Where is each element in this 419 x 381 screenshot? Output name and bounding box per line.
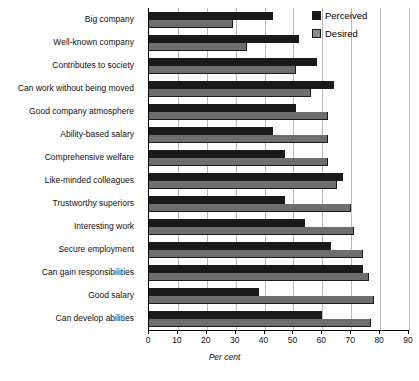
plot-area xyxy=(148,8,409,330)
bar-desired xyxy=(149,296,374,304)
category-label: Like-minded colleagues xyxy=(45,175,134,185)
x-tick-60 xyxy=(321,330,322,334)
legend-label-perceived: Perceived xyxy=(325,10,367,21)
legend-swatch-perceived-icon xyxy=(312,11,321,20)
category-label: Comprehensive welfare xyxy=(45,152,134,162)
bar-desired xyxy=(149,204,351,212)
category-label: Contributes to society xyxy=(52,60,134,70)
gridline-10 xyxy=(178,8,179,330)
bar-perceived xyxy=(149,265,363,273)
category-label: Good salary xyxy=(88,290,134,300)
gridline-50 xyxy=(293,8,294,330)
x-tick-label-20: 20 xyxy=(201,335,210,345)
category-label: Big company xyxy=(85,14,134,24)
x-tick-label-10: 10 xyxy=(172,335,181,345)
gridline-20 xyxy=(207,8,208,330)
bar-desired xyxy=(149,112,328,120)
x-tick-40 xyxy=(264,330,265,334)
legend-label-desired: Desired xyxy=(325,28,358,39)
bar-perceived xyxy=(149,311,322,319)
gridline-30 xyxy=(236,8,237,330)
legend-item-desired[interactable]: Desired xyxy=(312,28,367,39)
x-tick-label-60: 60 xyxy=(317,335,326,345)
x-tick-label-0: 0 xyxy=(146,335,151,345)
x-tick-90 xyxy=(408,330,409,334)
bar-perceived xyxy=(149,288,259,296)
gridline-80 xyxy=(380,8,381,330)
bar-desired xyxy=(149,273,369,281)
bar-perceived xyxy=(149,242,331,250)
x-tick-label-50: 50 xyxy=(288,335,297,345)
x-tick-label-80: 80 xyxy=(374,335,383,345)
category-label: Can work without being moved xyxy=(18,83,134,93)
x-axis-title-text: Per cent xyxy=(209,352,241,362)
bar-perceived xyxy=(149,173,343,181)
category-label: Interesting work xyxy=(74,221,134,231)
category-label: Can develop abilities xyxy=(56,313,134,323)
x-tick-70 xyxy=(350,330,351,334)
x-tick-label-70: 70 xyxy=(345,335,354,345)
x-tick-20 xyxy=(206,330,207,334)
bar-desired xyxy=(149,181,337,189)
bar-perceived xyxy=(149,58,317,66)
legend-item-perceived[interactable]: Perceived xyxy=(312,10,367,21)
category-axis-labels: Big companyWell-known companyContributes… xyxy=(0,8,139,330)
gridline-90 xyxy=(409,8,410,330)
bar-desired xyxy=(149,227,354,235)
bar-desired xyxy=(149,89,311,97)
legend-swatch-desired-icon xyxy=(312,29,321,38)
x-axis-line xyxy=(148,330,409,331)
bar-chart: Big companyWell-known companyContributes… xyxy=(0,0,419,381)
x-tick-label-90: 90 xyxy=(403,335,412,345)
bar-desired xyxy=(149,250,363,258)
category-label: Good company atmosphere xyxy=(29,106,134,116)
category-label: Secure employment xyxy=(58,244,134,254)
bar-desired xyxy=(149,319,371,327)
category-label: Trustworthy superiors xyxy=(53,198,134,208)
bar-perceived xyxy=(149,196,285,204)
bar-perceived xyxy=(149,81,334,89)
gridline-70 xyxy=(351,8,352,330)
x-tick-30 xyxy=(235,330,236,334)
bar-perceived xyxy=(149,35,299,43)
bar-perceived xyxy=(149,104,296,112)
x-tick-80 xyxy=(379,330,380,334)
x-axis-title: Per cent xyxy=(0,352,419,362)
x-tick-label-30: 30 xyxy=(230,335,239,345)
category-label: Ability-based salary xyxy=(60,129,134,139)
bar-perceived xyxy=(149,150,285,158)
bar-perceived xyxy=(149,12,273,20)
x-tick-0 xyxy=(148,330,149,334)
x-tick-label-40: 40 xyxy=(259,335,268,345)
x-tick-10 xyxy=(177,330,178,334)
bar-desired xyxy=(149,20,233,28)
bar-desired xyxy=(149,135,328,143)
bar-desired xyxy=(149,43,247,51)
gridline-40 xyxy=(265,8,266,330)
category-label: Well-known company xyxy=(53,37,134,47)
bar-desired xyxy=(149,158,328,166)
chart-legend: Perceived Desired xyxy=(312,10,367,46)
bar-desired xyxy=(149,66,296,74)
gridline-60 xyxy=(322,8,323,330)
category-label: Can gain responsibilities xyxy=(42,267,134,277)
bar-perceived xyxy=(149,219,305,227)
x-tick-50 xyxy=(292,330,293,334)
bar-perceived xyxy=(149,127,273,135)
